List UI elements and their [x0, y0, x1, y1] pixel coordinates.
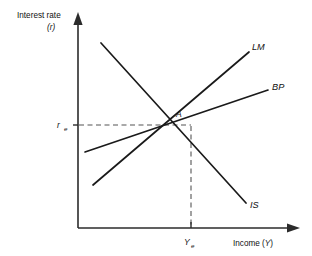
y-tick-label-re-var: r: [57, 120, 61, 130]
x-tick-label-ye-sub: e: [191, 242, 195, 249]
lm-curve-label: LM: [252, 42, 265, 52]
bp-curve-label: BP: [272, 82, 285, 92]
y-axis: [73, 12, 82, 228]
is-lm-bp-diagram: Interest rate (r) Income (Y) r e Y e A L…: [0, 0, 312, 256]
x-axis-label-close: ): [270, 239, 273, 248]
bp-curve: [85, 90, 268, 152]
x-axis-label-text: Income (: [233, 239, 265, 248]
svg-text:Income (Y): Income (Y): [233, 239, 273, 248]
x-axis-label: Income (Y): [233, 239, 273, 248]
x-axis: [78, 223, 300, 232]
x-tick-label-ye-var: Y: [184, 237, 191, 247]
y-axis-label-line1: Interest rate: [17, 11, 61, 20]
x-tick-label-ye: Y e: [184, 237, 195, 249]
y-tick-label-re-sub: e: [64, 125, 68, 132]
y-tick-label-re: r e: [57, 120, 68, 132]
is-curve-label: IS: [250, 200, 260, 210]
lm-curve: [93, 52, 249, 185]
y-axis-label-line2: (r): [47, 23, 55, 32]
is-curve: [101, 43, 246, 203]
point-a-label: A: [175, 109, 182, 119]
